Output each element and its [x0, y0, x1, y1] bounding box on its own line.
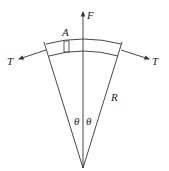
label-theta-right: θ — [86, 115, 92, 127]
outer-arc — [46, 39, 121, 44]
radial-line-right — [83, 42, 122, 168]
ring-segment-diagram: F A T T R θ θ — [0, 0, 169, 171]
tension-arrow-right — [121, 50, 149, 59]
label-t-left: T — [7, 55, 14, 67]
label-a: A — [61, 26, 69, 38]
label-r: R — [110, 91, 118, 103]
label-f: F — [86, 9, 94, 21]
inner-arc — [49, 51, 118, 56]
radial-line-left — [44, 42, 83, 168]
tension-arrow-left — [19, 50, 46, 59]
label-t-right: T — [152, 55, 159, 67]
label-theta-left: θ — [74, 115, 80, 127]
element-a-box — [64, 41, 69, 52]
